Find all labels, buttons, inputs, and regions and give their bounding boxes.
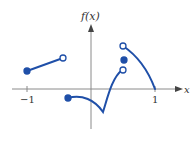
y-axis-arrow-icon: [88, 24, 94, 32]
y-axis-label: f(x): [80, 10, 100, 23]
tick-label-1: 1: [152, 94, 158, 105]
isolated-point: [121, 57, 127, 63]
segment-1: [27, 58, 63, 71]
closed-endpoint: [65, 95, 71, 101]
tick-label-neg1: −1: [20, 94, 35, 105]
x-axis-arrow-icon: [175, 86, 183, 92]
open-endpoint: [120, 67, 126, 73]
axes: [12, 24, 183, 129]
x-axis-label: x: [184, 84, 190, 95]
closed-endpoint: [24, 68, 30, 74]
segment-3: [123, 46, 155, 89]
open-endpoint: [60, 55, 66, 61]
open-endpoint: [120, 43, 126, 49]
segment-2: [68, 70, 122, 112]
function-graph: f(x) x −1 1: [0, 0, 195, 141]
